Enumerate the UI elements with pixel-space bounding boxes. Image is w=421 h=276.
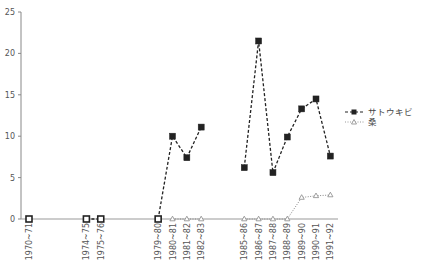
series-mulberry bbox=[170, 192, 333, 221]
y-tick-label: 20 bbox=[5, 49, 15, 58]
data-point bbox=[313, 96, 319, 102]
line-chart: 0510152025 1970~711974~751975~761979~801… bbox=[0, 0, 421, 276]
y-tick-label: 0 bbox=[10, 215, 15, 224]
x-tick-label: 1985~86 bbox=[240, 223, 249, 260]
data-point bbox=[270, 170, 276, 176]
data-point bbox=[328, 192, 333, 197]
x-tick-label: 1980~81 bbox=[169, 223, 178, 260]
data-point bbox=[184, 155, 190, 161]
data-point bbox=[198, 124, 204, 130]
data-point bbox=[241, 165, 247, 171]
legend: サトウキビ 桑 bbox=[345, 107, 413, 127]
series-sugarcane bbox=[26, 38, 333, 222]
x-axis: 1970~711974~751975~761979~801980~811981~… bbox=[21, 219, 338, 260]
legend-label-mulberry: 桑 bbox=[368, 117, 377, 127]
data-point bbox=[98, 216, 104, 222]
square-marker-icon bbox=[352, 110, 357, 115]
data-point bbox=[26, 216, 32, 222]
x-tick-label: 1979~80 bbox=[154, 223, 163, 260]
x-tick-label: 1987~88 bbox=[269, 223, 278, 260]
data-point bbox=[83, 216, 89, 222]
y-tick-label: 5 bbox=[10, 174, 15, 183]
x-tick-label: 1989~90 bbox=[298, 223, 307, 260]
data-point bbox=[170, 133, 176, 139]
data-point bbox=[284, 134, 290, 140]
legend-item-sugarcane: サトウキビ bbox=[345, 107, 413, 117]
x-tick-label: 1975~76 bbox=[97, 223, 106, 260]
x-tick-label: 1991~92 bbox=[326, 223, 335, 260]
y-tick-label: 15 bbox=[5, 91, 15, 100]
data-point bbox=[299, 106, 305, 112]
x-tick-label: 1970~71 bbox=[25, 223, 34, 260]
legend-label-sugarcane: サトウキビ bbox=[368, 107, 413, 117]
data-point bbox=[155, 216, 161, 222]
x-tick-label: 1986~87 bbox=[255, 223, 264, 260]
data-point bbox=[256, 38, 262, 44]
y-tick-label: 25 bbox=[5, 8, 15, 17]
series-layer bbox=[26, 38, 333, 222]
y-tick-label: 10 bbox=[5, 132, 15, 141]
data-point bbox=[327, 153, 333, 159]
x-tick-label: 1974~75 bbox=[82, 223, 91, 260]
y-axis: 0510152025 bbox=[5, 8, 21, 224]
x-tick-label: 1981~82 bbox=[183, 223, 192, 260]
legend-item-mulberry: 桑 bbox=[345, 117, 377, 127]
x-tick-label: 1990~91 bbox=[312, 223, 321, 260]
x-tick-label: 1982~83 bbox=[197, 223, 206, 260]
x-tick-label: 1988~89 bbox=[283, 223, 292, 260]
